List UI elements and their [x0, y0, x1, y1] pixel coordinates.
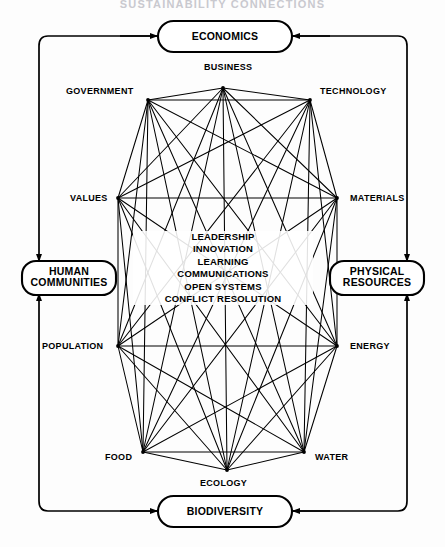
arrow-economics-to-physical-resources: [287, 36, 407, 262]
node-label-population: POPULATION: [42, 341, 103, 351]
concept-innovation: INNOVATION: [133, 243, 313, 255]
edge-business-materials: [223, 88, 337, 198]
node-dot-population: [116, 344, 120, 348]
diagram-canvas: SUSTAINABILITY CONNECTIONS: [0, 0, 445, 547]
box-biodiversity: [158, 496, 292, 527]
edge-technology-materials: [310, 100, 337, 198]
edge-ecology-food: [143, 452, 227, 470]
core-concepts-list: LEADERSHIP INNOVATION LEARNING COMMUNICA…: [133, 231, 313, 305]
edge-business-values: [118, 88, 223, 198]
concept-open-systems: OPEN SYSTEMS: [133, 281, 313, 293]
concept-learning: LEARNING: [133, 256, 313, 268]
node-dot-technology: [308, 98, 312, 102]
node-dot-values: [116, 196, 120, 200]
edge-business-technology: [223, 88, 310, 100]
edge-technology-population: [118, 100, 310, 346]
node-label-materials: MATERIALS: [350, 193, 405, 203]
concept-leadership: LEADERSHIP: [133, 231, 313, 243]
edge-technology-energy: [310, 100, 337, 346]
node-dot-ecology: [225, 468, 229, 472]
node-dot-business: [221, 86, 225, 90]
node-label-food: FOOD: [105, 452, 132, 462]
edge-values-government: [118, 100, 148, 198]
edge-food-population: [118, 346, 143, 452]
node-label-values: VALUES: [70, 193, 108, 203]
node-label-energy: ENERGY: [350, 341, 390, 351]
node-label-technology: TECHNOLOGY: [320, 86, 387, 96]
edge-business-government: [148, 88, 223, 100]
node-dot-energy: [335, 344, 339, 348]
node-dot-government: [146, 98, 150, 102]
edge-energy-food: [143, 346, 337, 452]
node-dot-water: [302, 450, 306, 454]
box-human-communities: [22, 261, 116, 295]
concept-communications: COMMUNICATIONS: [133, 268, 313, 280]
node-dot-food: [141, 450, 145, 454]
box-economics: [158, 21, 292, 52]
concept-conflict-resolution: CONFLICT RESOLUTION: [133, 293, 313, 305]
node-label-water: WATER: [315, 452, 348, 462]
node-dot-materials: [335, 196, 339, 200]
node-label-ecology: ECOLOGY: [200, 478, 247, 488]
edge-water-population: [118, 346, 304, 452]
node-label-business: BUSINESS: [204, 62, 252, 72]
node-label-government: GOVERNMENT: [66, 86, 134, 96]
edge-energy-government: [148, 100, 337, 346]
arrow-biodiversity-to-human-communities: [39, 293, 160, 511]
box-physical-resources: [330, 261, 424, 295]
edge-water-ecology: [227, 452, 304, 470]
